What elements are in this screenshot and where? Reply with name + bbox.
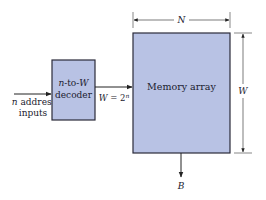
width-label: N: [177, 15, 187, 25]
memory-array-label: Memory array: [147, 81, 216, 92]
output-width-label: B: [177, 181, 185, 191]
memory-array-box: [133, 33, 230, 153]
input-label-line2: inputs: [19, 108, 48, 118]
decoder-label-line1: n-to-W: [58, 78, 89, 88]
memory-decoder-diagram: n address inputs n-to-W decoder W = 2n M…: [0, 0, 266, 200]
word-count-label: W = 2n: [99, 92, 130, 103]
height-label: W: [238, 86, 248, 96]
decoder-label-line2: decoder: [55, 90, 93, 100]
input-label-line1: n address: [12, 97, 57, 107]
